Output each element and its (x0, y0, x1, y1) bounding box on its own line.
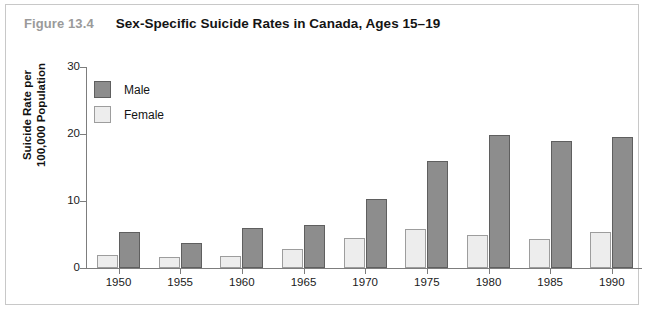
legend-swatch-male-icon (94, 81, 111, 98)
x-tick-mark (427, 268, 428, 274)
x-tick-mark (119, 268, 120, 274)
x-tick-mark (550, 268, 551, 274)
bar-group (159, 67, 221, 268)
legend-item-female: Female (94, 102, 164, 127)
x-tick-label: 1960 (212, 276, 272, 288)
legend-label-female: Female (124, 108, 164, 122)
bar-female[interactable] (529, 239, 550, 268)
legend-swatch-female-icon (94, 106, 111, 123)
chart-legend: Male Female (94, 77, 164, 127)
bar-female[interactable] (467, 235, 488, 269)
bar-female[interactable] (97, 255, 118, 268)
bar-group (590, 67, 645, 268)
y-axis-title: Suicide Rate per 100,000 Population (20, 35, 48, 195)
bar-male[interactable] (304, 225, 325, 268)
bar-group (220, 67, 282, 268)
y-axis-title-line-1: Suicide Rate per (20, 35, 34, 195)
legend-label-male: Male (124, 83, 150, 97)
x-tick-label: 1970 (335, 276, 395, 288)
chart-plot-area: Suicide Rate per 100,000 Population 0102… (6, 5, 638, 304)
x-tick-mark (242, 268, 243, 274)
x-tick-label: 1975 (397, 276, 457, 288)
y-tick-label: 0 (40, 261, 80, 273)
y-tick-mark (80, 268, 87, 269)
y-axis-title-line-2: 100,000 Population (34, 35, 48, 195)
figure-card: Figure 13.4 Sex-Specific Suicide Rates i… (5, 4, 639, 305)
bar-group (282, 67, 344, 268)
x-tick-mark (365, 268, 366, 274)
x-tick-label: 1955 (150, 276, 210, 288)
y-tick-mark (80, 134, 87, 135)
x-tick-label: 1965 (274, 276, 334, 288)
bars-layer (87, 67, 642, 268)
x-tick-mark (489, 268, 490, 274)
bar-group (344, 67, 406, 268)
bar-group (467, 67, 529, 268)
legend-item-male: Male (94, 77, 164, 102)
bar-female[interactable] (159, 257, 180, 268)
x-tick-mark (304, 268, 305, 274)
bar-male[interactable] (181, 243, 202, 268)
bar-male[interactable] (119, 232, 140, 268)
bar-male[interactable] (242, 228, 263, 268)
y-tick-label: 30 (40, 60, 80, 72)
bar-male[interactable] (489, 135, 510, 268)
bar-group (529, 67, 591, 268)
bar-female[interactable] (282, 249, 303, 268)
x-tick-label: 1990 (582, 276, 642, 288)
x-tick-mark (180, 268, 181, 274)
bar-male[interactable] (366, 199, 387, 268)
y-tick-mark (80, 201, 87, 202)
x-tick-label: 1985 (520, 276, 580, 288)
bar-female[interactable] (344, 238, 365, 268)
x-tick-label: 1950 (89, 276, 149, 288)
x-tick-label: 1980 (459, 276, 519, 288)
bar-male[interactable] (427, 161, 448, 268)
bar-female[interactable] (220, 256, 241, 268)
bar-group (405, 67, 467, 268)
y-tick-label: 10 (40, 194, 80, 206)
bar-female[interactable] (405, 229, 426, 268)
y-tick-label: 20 (40, 127, 80, 139)
x-axis-line (86, 268, 642, 269)
y-tick-mark (80, 67, 87, 68)
x-tick-mark (612, 268, 613, 274)
bar-male[interactable] (551, 141, 572, 268)
bar-male[interactable] (612, 137, 633, 268)
bar-female[interactable] (590, 232, 611, 268)
